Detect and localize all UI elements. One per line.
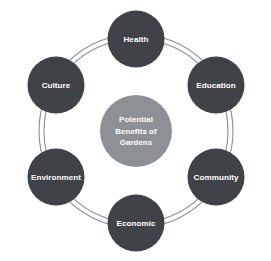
node-culture[interactable]: Culture bbox=[28, 57, 85, 114]
node-economic-label: Economic bbox=[116, 219, 156, 228]
node-education-label: Education bbox=[196, 81, 236, 90]
node-community-label: Community bbox=[194, 173, 239, 182]
diagram-canvas: Potential Benefits of Gardens Health Edu… bbox=[0, 0, 271, 261]
center-hub-label-line-3: Gardens bbox=[120, 138, 153, 147]
center-hub-label-line-2: Benefits of bbox=[115, 127, 157, 136]
node-education[interactable]: Education bbox=[188, 57, 245, 114]
center-hub: Potential Benefits of Gardens bbox=[100, 95, 172, 167]
benefits-cycle-diagram: Potential Benefits of Gardens Health Edu… bbox=[0, 0, 271, 261]
node-health-label: Health bbox=[123, 35, 148, 44]
node-environment[interactable]: Environment bbox=[28, 149, 85, 206]
node-economic[interactable]: Economic bbox=[108, 195, 165, 252]
node-environment-label: Environment bbox=[31, 173, 81, 182]
center-hub-label-line-1: Potential bbox=[119, 115, 153, 124]
node-health[interactable]: Health bbox=[108, 11, 165, 68]
node-culture-label: Culture bbox=[42, 81, 71, 90]
node-community[interactable]: Community bbox=[188, 149, 245, 206]
